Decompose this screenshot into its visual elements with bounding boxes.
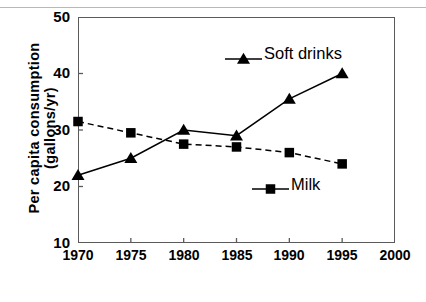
data-point-soft-drinks (336, 67, 349, 78)
data-point-milk (126, 128, 136, 138)
data-point-milk (337, 159, 347, 169)
data-point-milk (179, 139, 189, 149)
data-point-milk (285, 148, 295, 158)
data-point-milk (232, 142, 242, 152)
data-point-soft-drinks (124, 152, 137, 163)
series-line-milk (78, 122, 342, 164)
data-point-soft-drinks (177, 124, 190, 135)
data-point-milk (73, 117, 83, 127)
data-point-soft-drinks (283, 93, 296, 104)
series-line-soft-drinks (78, 74, 342, 176)
chart-figure: Per capita consumption (gallons/yr) 50 4… (0, 0, 426, 302)
legend-marker-milk (266, 184, 276, 194)
chart-plot-svg (0, 0, 426, 302)
